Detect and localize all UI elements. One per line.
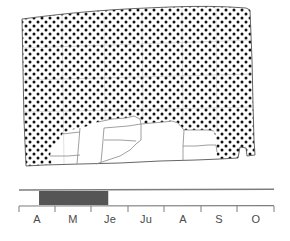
chart-ticks <box>19 206 274 212</box>
occurrence-bar <box>39 191 108 205</box>
distribution-map <box>0 0 290 182</box>
distribution-figure: A M Je Ju A S O <box>0 0 290 241</box>
month-label-5: S <box>215 213 223 225</box>
map-svg <box>0 0 290 182</box>
season-chart-svg: A M Je Ju A S O <box>0 182 290 241</box>
month-label-4: A <box>179 213 187 225</box>
chart-top-rail <box>19 189 274 190</box>
month-label-0: A <box>33 213 41 225</box>
month-label-2: Je <box>104 213 116 225</box>
seasonal-occurrence-chart: A M Je Ju A S O <box>0 182 290 241</box>
month-label-1: M <box>68 213 77 225</box>
month-label-6: O <box>252 213 261 225</box>
month-label-3: Ju <box>140 213 152 225</box>
